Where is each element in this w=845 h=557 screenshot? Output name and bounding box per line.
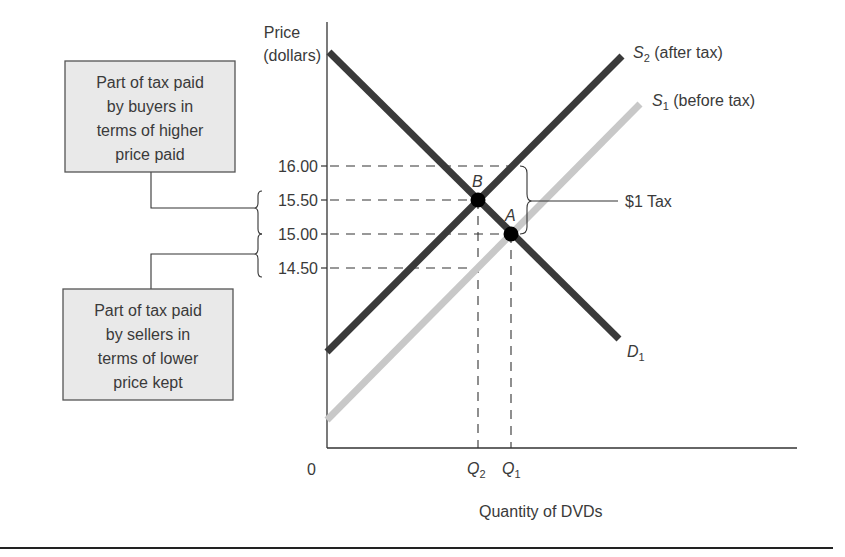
supply-curve-s1 <box>327 104 640 420</box>
point-a-label: A <box>504 207 516 224</box>
sellers-share-box: Part of tax paid by sellers in terms of … <box>63 289 233 400</box>
point-b-label: B <box>472 173 483 190</box>
x-tick-q1: Q1 <box>502 460 521 480</box>
svg-text:price paid: price paid <box>115 146 184 163</box>
buyers-brace <box>254 191 262 234</box>
y-tick-14-50: 14.50 <box>278 260 318 277</box>
sellers-connector <box>151 254 254 289</box>
x-axis-title: Quantity of DVDs <box>479 503 603 520</box>
svg-text:Part of tax paid: Part of tax paid <box>96 74 204 91</box>
buyers-connector <box>151 172 254 208</box>
y-tick-15-50: 15.50 <box>278 192 318 209</box>
s2-label: S2 (after tax) <box>633 44 723 64</box>
buyers-share-box: Part of tax paid by buyers in terms of h… <box>65 61 235 172</box>
point-a-dot <box>504 227 519 242</box>
tax-incidence-chart: Part of tax paid by buyers in terms of h… <box>0 0 845 557</box>
d1-label: D1 <box>627 343 645 363</box>
origin-label: 0 <box>307 461 316 478</box>
svg-text:price kept: price kept <box>113 374 183 391</box>
y-tick-marks <box>321 166 327 268</box>
y-tick-15-00: 15.00 <box>278 226 318 243</box>
svg-text:terms of higher: terms of higher <box>97 122 204 139</box>
x-tick-q2: Q2 <box>467 460 486 480</box>
y-axis-title-line1: Price <box>264 24 301 41</box>
svg-text:by sellers in: by sellers in <box>106 326 190 343</box>
point-b-dot <box>471 193 486 208</box>
svg-text:terms of lower: terms of lower <box>98 350 199 367</box>
sellers-brace <box>254 234 262 277</box>
svg-text:Part of tax paid: Part of tax paid <box>94 302 202 319</box>
tax-label: $1 Tax <box>625 193 672 210</box>
y-tick-16-00: 16.00 <box>278 158 318 175</box>
svg-text:by buyers in: by buyers in <box>107 98 193 115</box>
s1-label: S1 (before tax) <box>652 92 755 112</box>
y-axis-title-line2: (dollars) <box>263 47 321 64</box>
